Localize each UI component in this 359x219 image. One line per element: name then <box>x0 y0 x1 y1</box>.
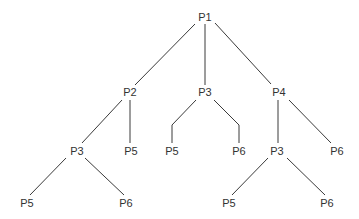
tree-diagram: P1 P2 P3 P4 P3 P5 P5 P6 P3 P6 P5 P6 P5 P… <box>0 0 359 219</box>
node-p1-root: P1 <box>198 12 211 23</box>
node-p6-leaf-right: P6 <box>320 198 333 209</box>
node-p6-leaf-left: P6 <box>119 198 132 209</box>
node-p6-under-p4: P6 <box>330 146 343 157</box>
edge-p3-p5-right <box>232 158 268 195</box>
edge-p4-p6 <box>289 100 331 143</box>
node-p3-under-p2: P3 <box>70 146 83 157</box>
edge-p2-p3 <box>82 100 122 143</box>
node-p4: P4 <box>272 87 285 98</box>
node-p3-middle: P3 <box>198 87 211 98</box>
edges-layer <box>0 0 359 219</box>
edge-p3-p5-left <box>30 158 66 195</box>
node-p6-under-p3: P6 <box>232 146 245 157</box>
edge-p1-p4 <box>215 23 271 84</box>
node-p2: P2 <box>123 87 136 98</box>
node-p5-leaf-right: P5 <box>222 198 235 209</box>
node-p5-under-p3: P5 <box>165 146 178 157</box>
edge-p3-p6-left <box>85 158 124 195</box>
edge-p3-p6-right <box>287 158 325 195</box>
edge-p1-p2 <box>135 24 195 85</box>
node-p5-under-p2: P5 <box>124 146 137 157</box>
edge-p3-p5 <box>172 100 196 143</box>
node-p3-under-p4: P3 <box>270 146 283 157</box>
node-p5-leaf-left: P5 <box>20 198 33 209</box>
edge-p3-p6 <box>214 100 239 143</box>
